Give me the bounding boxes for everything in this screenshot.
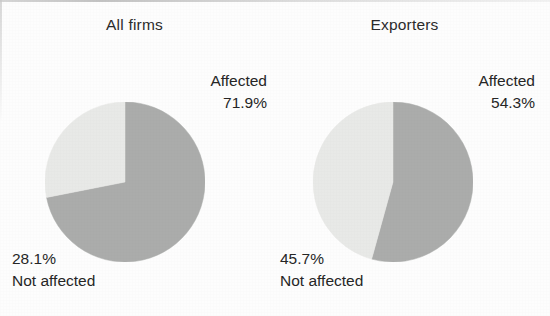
slice-label-affected-all-firms: Affected 71.9%	[210, 70, 267, 114]
pie-svg-all-firms	[45, 102, 205, 262]
slice-label-not-affected-text: Not affected	[12, 270, 95, 292]
slice-label-not-affected-value: 28.1%	[12, 248, 95, 270]
slice-label-not-affected-text: Not affected	[280, 270, 363, 292]
pie-chart-figure: All firms Affected 71.9% 28.1% Not affec…	[0, 0, 550, 316]
slice-label-affected-text: Affected	[478, 70, 535, 92]
pie-all-firms	[45, 102, 205, 262]
slice-label-not-affected-exporters: 45.7% Not affected	[280, 248, 363, 292]
slice-label-affected-value: 54.3%	[478, 92, 535, 114]
pie-svg-exporters	[313, 102, 473, 262]
pie-slice-not-affected-all-firms	[45, 102, 125, 197]
slice-label-affected-value: 71.9%	[210, 92, 267, 114]
chart-title-exporters: Exporters	[267, 16, 542, 34]
chart-panel-exporters: Exporters Affected 54.3% 45.7% Not affec…	[275, 0, 550, 316]
slice-label-not-affected-value: 45.7%	[280, 248, 363, 270]
chart-panel-all-firms: All firms Affected 71.9% 28.1% Not affec…	[0, 0, 275, 316]
slice-label-not-affected-all-firms: 28.1% Not affected	[12, 248, 95, 292]
slice-label-affected-text: Affected	[210, 70, 267, 92]
slice-label-affected-exporters: Affected 54.3%	[478, 70, 535, 114]
pie-exporters	[313, 102, 473, 262]
chart-title-all-firms: All firms	[0, 16, 272, 34]
